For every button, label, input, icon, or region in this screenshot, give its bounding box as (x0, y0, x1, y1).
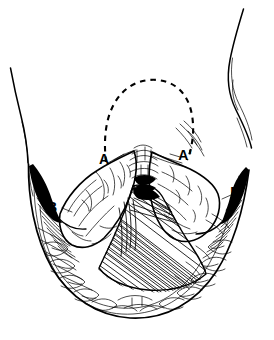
label-b-prime: B' (230, 184, 243, 200)
right-thigh-contour-inner (231, 58, 252, 140)
right-tissue-lobe (149, 121, 219, 242)
label-b: B (47, 199, 57, 215)
label-a: A (99, 151, 109, 167)
illustration-canvas: A A' B B' (0, 0, 274, 340)
central-hatched-cavity (92, 180, 230, 334)
left-thigh-contour (11, 68, 29, 163)
left-tissue-lobe (60, 150, 137, 247)
anatomy-line-drawing: A A' B B' (0, 0, 274, 340)
label-a-prime: A' (178, 147, 191, 163)
